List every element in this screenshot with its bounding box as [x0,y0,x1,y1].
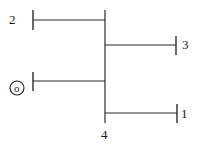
bus-2-label: 2 [9,12,16,27]
generator-label: o [14,82,20,94]
bus-2: 2 [9,10,105,30]
bus-3-label: 3 [182,37,189,52]
bus-gen: o [10,72,105,95]
one-line-diagram: 4 2 3 o 1 [0,0,198,153]
bus-1-label: 1 [181,106,188,121]
bus-3: 3 [105,36,189,55]
main-bus-label: 4 [101,127,108,142]
bus-1: 1 [105,104,188,123]
